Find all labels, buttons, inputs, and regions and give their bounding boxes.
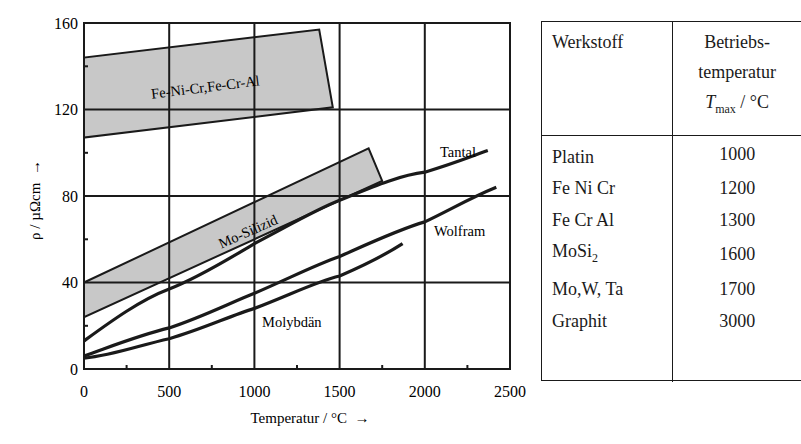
tmax-cell: 1700 [673, 274, 801, 306]
y-tick-labels: 0 40 80 120 160 [54, 15, 78, 378]
svg-text:120: 120 [54, 101, 78, 118]
svg-text:0: 0 [80, 383, 88, 400]
empty-cell [542, 337, 673, 382]
svg-text:1500: 1500 [324, 383, 356, 400]
max-temperature-table: Werkstoff Betriebs- temperatur Tmax / °C… [541, 21, 801, 381]
material-base: MoSi [552, 241, 592, 261]
svg-text:2000: 2000 [409, 383, 441, 400]
material-cell: Fe Cr Al [542, 205, 673, 237]
tantal-label: Tantal [440, 144, 476, 160]
x-axis-title: Temperatur / °C → [250, 410, 369, 426]
tmax-cell: 1600 [673, 236, 801, 274]
tmax-subscript: max [715, 102, 736, 116]
tmax-cell: 3000 [673, 306, 801, 338]
table-filler-row [542, 337, 801, 382]
svg-text:160: 160 [54, 15, 78, 32]
svg-text:2500: 2500 [494, 383, 526, 400]
material-cell: Mo,W, Ta [542, 274, 673, 306]
header-werkstoff: Werkstoff [542, 22, 673, 135]
tmax-cell: 1200 [673, 173, 801, 205]
empty-cell [673, 337, 801, 382]
header-betriebstemperatur: Betriebs- temperatur Tmax / °C [673, 22, 801, 135]
material-subscript: 2 [592, 251, 598, 265]
molybdaen-label: Molybdän [262, 314, 322, 330]
x-tick-labels: 0 500 1000 1500 2000 2500 [80, 383, 526, 400]
material-cell: Platin [542, 135, 673, 173]
table-row: Platin 1000 [542, 135, 801, 173]
tmax-unit: / °C [736, 92, 769, 112]
svg-text:0: 0 [70, 361, 78, 378]
table-row: Mo,W, Ta 1700 [542, 274, 801, 306]
table-row: Fe Cr Al 1300 [542, 205, 801, 237]
svg-text:80: 80 [62, 188, 78, 205]
table-row: Graphit 3000 [542, 306, 801, 338]
table-row: MoSi2 1600 [542, 236, 801, 274]
header-tmax: Tmax / °C [673, 87, 801, 124]
material-cell: Graphit [542, 306, 673, 338]
wolfram-label: Wolfram [434, 223, 486, 239]
svg-text:500: 500 [157, 383, 181, 400]
material-table: Werkstoff Betriebs- temperatur Tmax / °C… [542, 22, 801, 382]
material-cell: MoSi2 [542, 236, 673, 274]
resistivity-chart: Fe-Ni-Cr,Fe-Cr-Al Mo-Silizid Tantal Wolf… [0, 0, 540, 444]
tmax-symbol: T [705, 92, 715, 112]
tmax-cell: 1000 [673, 135, 801, 173]
tantal-curve [84, 151, 488, 341]
header-line1: Betriebs- [673, 27, 801, 57]
tmax-cell: 1300 [673, 205, 801, 237]
svg-text:40: 40 [62, 274, 78, 291]
y-axis-title: ρ / µΩcm → [27, 160, 43, 240]
material-cell: Fe Ni Cr [542, 173, 673, 205]
table-row: Fe Ni Cr 1200 [542, 173, 801, 205]
header-line2: temperatur [673, 57, 801, 87]
svg-text:1000: 1000 [238, 383, 270, 400]
table-header-row: Werkstoff Betriebs- temperatur Tmax / °C [542, 22, 801, 135]
